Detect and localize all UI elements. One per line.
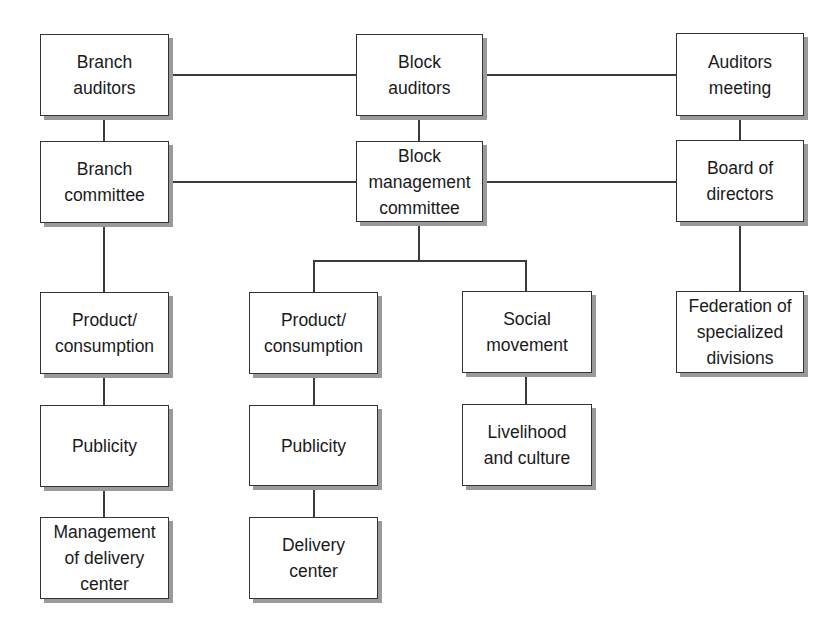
node-delivery-center: Delivery center	[249, 517, 378, 599]
node-branch-auditors: Branch auditors	[40, 34, 169, 116]
organization-chart: Branch auditors Block auditors Auditors …	[0, 0, 840, 638]
node-social-movement: Social movement	[462, 291, 592, 373]
connector-branch-committee-product	[103, 223, 105, 292]
node-auditors-meeting: Auditors meeting	[676, 33, 804, 116]
node-management-delivery-center: Management of delivery center	[40, 517, 169, 599]
connector-bus-block-product	[313, 260, 315, 292]
connector-branch-product-publicity	[103, 374, 105, 405]
node-branch-product-consumption: Product/ consumption	[40, 292, 169, 374]
node-board-of-directors: Board of directors	[676, 140, 804, 222]
connector-block-auditors-auditors-meeting	[483, 74, 676, 76]
connector-board-federation	[739, 222, 741, 291]
connector-block-auditors-block-committee	[418, 116, 420, 141]
connector-block-product-publicity	[313, 374, 315, 405]
connector-block-publicity-delivery	[313, 486, 315, 517]
connector-block-committee-bus	[313, 260, 526, 262]
node-block-auditors: Block auditors	[356, 34, 483, 116]
connector-block-committee-board	[483, 181, 676, 183]
connector-branch-committee-block-committee	[169, 181, 356, 183]
connector-block-committee-down	[418, 222, 420, 260]
node-branch-publicity: Publicity	[40, 405, 169, 487]
node-branch-committee: Branch committee	[40, 141, 169, 223]
node-block-product-consumption: Product/ consumption	[249, 292, 378, 374]
connector-branch-publicity-management	[103, 487, 105, 517]
connector-auditors-meeting-board	[739, 116, 741, 140]
node-federation-specialized-divisions: Federation of specialized divisions	[676, 291, 804, 373]
node-block-publicity: Publicity	[249, 405, 378, 486]
node-livelihood-culture: Livelihood and culture	[462, 404, 592, 486]
connector-branch-auditors-block-auditors	[169, 74, 356, 76]
connector-social-livelihood	[525, 373, 527, 404]
connector-branch-auditors-branch-committee	[103, 116, 105, 141]
node-block-management-committee: Block management committee	[356, 141, 483, 222]
connector-bus-social-movement	[525, 260, 527, 291]
